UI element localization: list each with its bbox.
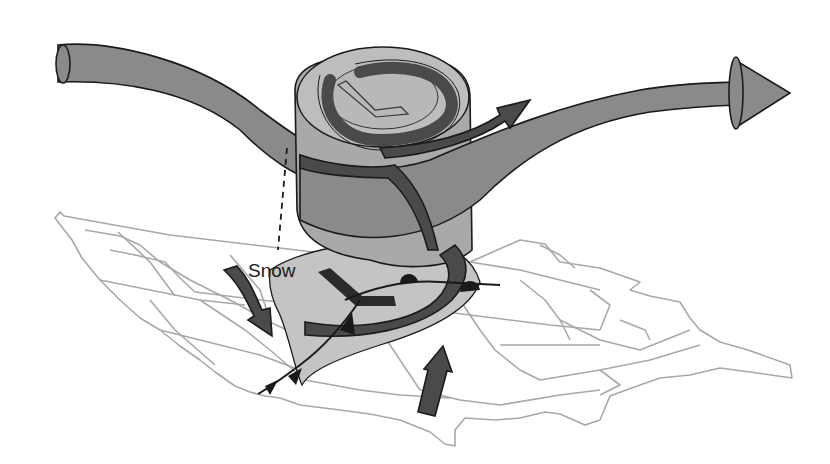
cyclone-diagram: Snow [0, 0, 830, 464]
jet-stream [58, 44, 320, 180]
snow-label: Snow [248, 260, 296, 281]
warm-air-arrow [418, 346, 452, 416]
